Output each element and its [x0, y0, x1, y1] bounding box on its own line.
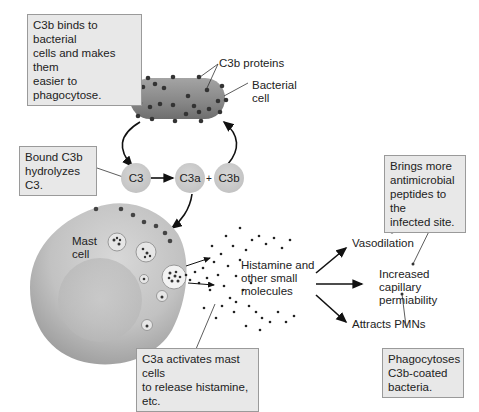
callout-line: C3a activates mast cells — [142, 352, 253, 380]
callout-c3a-activates: C3a activates mast cells to release hist… — [136, 348, 259, 412]
label-vasodilation: Vasodilation — [352, 237, 414, 250]
callout-line: Brings more — [390, 159, 460, 173]
label-capillary-permeability: Increased capillary permiability — [379, 268, 437, 307]
callout-brings-more: Brings more antimicrobial peptides to th… — [384, 155, 466, 233]
nucleus — [58, 258, 142, 342]
label-line: Histamine and — [241, 259, 315, 272]
label-attracts-pmns: Attracts PMNs — [352, 318, 425, 331]
callout-line: bacteria. — [388, 380, 458, 394]
callout-line: to release histamine, etc. — [142, 380, 253, 408]
callout-line: C3b binds to bacterial — [33, 18, 136, 46]
callout-line: antimicrobial — [390, 173, 460, 187]
callout-line: infected site. — [390, 215, 460, 229]
callout-line: cells and makes them — [33, 46, 136, 74]
callout-line: peptides to the — [390, 187, 460, 215]
label-line: capillary — [379, 281, 437, 294]
callout-line: Phagocytoses — [388, 352, 458, 366]
label-line: molecules — [241, 285, 315, 298]
label-line: cell — [72, 248, 97, 261]
label-line: Increased — [379, 268, 437, 281]
label-bacterial-cell: Bacterial cell — [252, 79, 297, 105]
label-c3b-proteins: C3b proteins — [219, 57, 284, 70]
label-line: cell — [252, 92, 297, 105]
label-line: permiability — [379, 294, 437, 307]
node-c3a: C3a — [175, 163, 205, 193]
label-histamine: Histamine and other small molecules — [241, 259, 315, 298]
callout-line: hydrolyzes C3. — [25, 164, 91, 192]
label-line: Mast — [72, 235, 97, 248]
callout-phagocytoses: Phagocytoses C3b-coated bacteria. — [382, 348, 464, 398]
node-c3b: C3b — [214, 163, 244, 193]
callout-line: easier to phagocytose. — [33, 74, 136, 102]
label-line: Bacterial — [252, 79, 297, 92]
callout-line: Bound C3b — [25, 150, 91, 164]
plus-sign: + — [206, 172, 212, 185]
callout-line: C3b-coated — [388, 366, 458, 380]
callout-c3b-binds: C3b binds to bacterial cells and makes t… — [27, 14, 142, 106]
label-line: other small — [241, 272, 315, 285]
node-c3: C3 — [121, 163, 151, 193]
effect-arrows — [316, 248, 362, 322]
callout-bound-c3b: Bound C3b hydrolyzes C3. — [19, 146, 97, 196]
label-mast-cell: Mast cell — [72, 235, 97, 261]
mast-cell — [30, 203, 187, 364]
